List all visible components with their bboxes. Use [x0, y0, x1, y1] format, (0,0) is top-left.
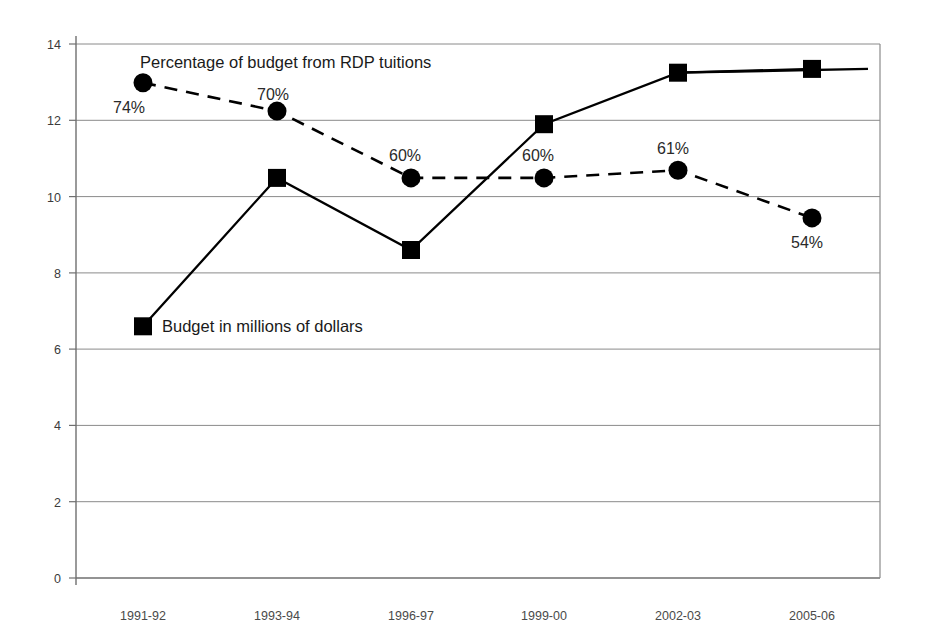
data-point-marker — [402, 168, 421, 187]
x-axis-tick-label: 2005-06 — [789, 609, 835, 623]
data-point-marker — [268, 102, 287, 121]
data-point-marker — [669, 161, 688, 180]
data-point-marker — [268, 169, 286, 187]
y-axis-tick-label: 0 — [54, 572, 61, 586]
series-label-budget: Budget in millions of dollars — [162, 317, 363, 335]
x-axis-tick-label: 1999-00 — [521, 609, 567, 623]
data-point-marker — [803, 60, 821, 78]
data-point-label: 54% — [791, 234, 823, 251]
data-point-marker — [535, 168, 554, 187]
y-axis-ticks — [69, 44, 76, 578]
data-point-label: 61% — [657, 140, 689, 157]
y-axis-tick-label: 8 — [54, 267, 61, 281]
y-axis-tick-label: 12 — [47, 114, 61, 128]
y-axis-tick-label: 4 — [54, 419, 61, 433]
data-point-marker — [669, 64, 687, 82]
x-axis-tick-label: 1993-94 — [254, 609, 300, 623]
series-label-percentage: Percentage of budget from RDP tuitions — [140, 53, 431, 71]
x-axis-tick-label: 1991-92 — [120, 609, 166, 623]
chart-container: 14 12 10 8 6 4 2 0 1991-92 1993-94 1996-… — [0, 0, 928, 643]
data-point-marker — [535, 115, 553, 133]
y-axis-tick-label: 6 — [54, 343, 61, 357]
data-point-label: 60% — [522, 147, 554, 164]
y-axis-tick-label: 10 — [47, 191, 61, 205]
data-point-marker — [803, 208, 822, 227]
plot-area-background — [76, 44, 880, 578]
data-point-marker — [134, 317, 152, 335]
data-point-label: 70% — [257, 86, 289, 103]
data-point-marker — [134, 73, 153, 92]
data-point-marker — [402, 241, 420, 259]
data-point-label: 74% — [113, 99, 145, 116]
y-axis-tick-label: 14 — [47, 38, 61, 52]
x-axis-tick-label: 2002-03 — [655, 609, 701, 623]
y-axis-tick-label: 2 — [54, 496, 61, 510]
line-chart: 14 12 10 8 6 4 2 0 1991-92 1993-94 1996-… — [0, 0, 928, 643]
x-axis-tick-label: 1996-97 — [388, 609, 434, 623]
data-point-label: 60% — [389, 147, 421, 164]
